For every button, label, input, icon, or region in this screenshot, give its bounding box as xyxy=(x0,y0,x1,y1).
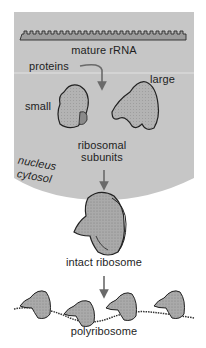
mature-rrna-label: mature rRNA xyxy=(71,44,136,56)
proteins-label: proteins xyxy=(29,60,69,72)
polyribosome-ribosome-1 xyxy=(20,291,51,319)
polyribosome-label: polyribosome xyxy=(71,325,138,337)
polyribosome-ribosome-2 xyxy=(64,301,95,327)
subunits-label: subunits xyxy=(81,151,123,163)
polyribosome-ribosome-4 xyxy=(154,291,185,319)
intact-ribosome-label: intact ribosome xyxy=(66,256,142,268)
intact-ribosome-shape xyxy=(74,192,126,255)
polyribosome-ribosome-3 xyxy=(106,293,137,321)
large-label: large xyxy=(150,73,175,85)
ribosome-assembly-diagram: mature rRNA proteins large small ribosom… xyxy=(0,0,206,348)
small-label: small xyxy=(25,100,51,112)
ribosomal-label: ribosomal xyxy=(78,139,127,151)
